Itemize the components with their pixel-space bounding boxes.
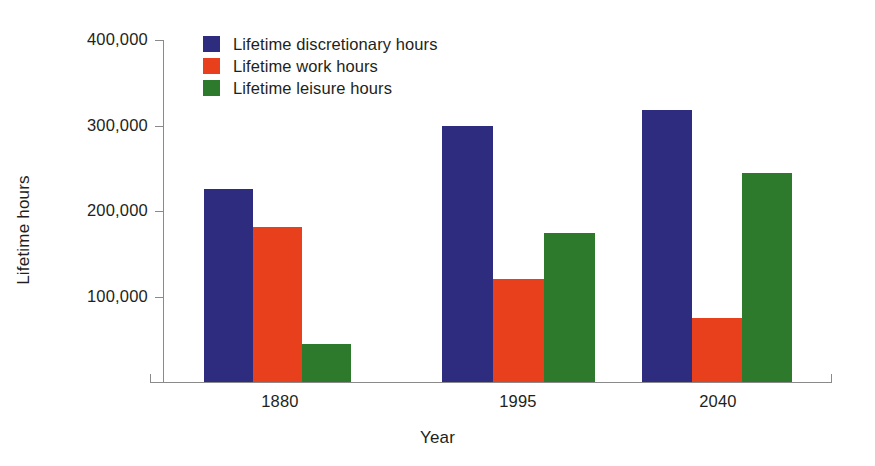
- bar: [642, 110, 692, 382]
- x-axis-line: [150, 382, 832, 383]
- legend-swatch-icon: [203, 80, 220, 96]
- bar: [742, 173, 792, 382]
- x-tick-label: 1880: [200, 392, 360, 411]
- legend-label: Lifetime work hours: [233, 55, 378, 77]
- legend-item: Lifetime work hours: [203, 55, 438, 77]
- bar: [253, 227, 302, 382]
- chart-legend: Lifetime discretionary hoursLifetime wor…: [203, 33, 438, 99]
- legend-swatch-icon: [203, 36, 220, 52]
- bar: [302, 344, 351, 382]
- bar: [493, 279, 544, 382]
- x-tick-label: 2040: [638, 392, 798, 411]
- bar: [442, 126, 493, 382]
- legend-item: Lifetime discretionary hours: [203, 33, 438, 55]
- x-axis-title: Year: [0, 428, 875, 448]
- bar: [544, 233, 595, 382]
- bar-chart: Lifetime hours 400,000300,000200,000100,…: [0, 0, 875, 466]
- x-tick-label: 1995: [438, 392, 598, 411]
- legend-item: Lifetime leisure hours: [203, 77, 438, 99]
- legend-swatch-icon: [203, 58, 220, 74]
- bar: [692, 318, 742, 382]
- bar: [204, 189, 253, 382]
- legend-label: Lifetime discretionary hours: [233, 33, 438, 55]
- legend-label: Lifetime leisure hours: [233, 77, 392, 99]
